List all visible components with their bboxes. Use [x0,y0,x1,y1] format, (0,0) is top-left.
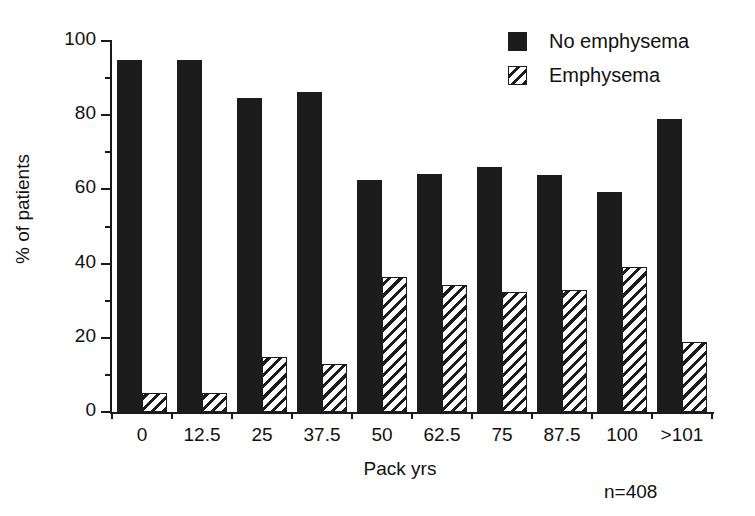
bar-emphysema-12.5 [202,393,227,412]
bar-no-emphysema-37.5 [297,92,322,412]
bar-no-emphysema-0 [117,60,142,412]
bar-emphysema-87.5 [562,290,587,412]
x-tick-37.5 [351,412,353,419]
bar-no-emphysema-87.5 [537,175,562,412]
bar-no-emphysema->101 [657,119,682,412]
y-tick-label-80: 80 [50,102,96,124]
y-minor-tick-90 [105,77,110,79]
y-axis-tick-labels: 020406080100 [44,0,96,516]
x-tick-0 [171,412,173,419]
bar-no-emphysema-50 [357,180,382,412]
x-tick-100 [651,412,653,419]
plot-area [112,41,712,412]
y-tick-40 [101,263,110,265]
x-axis-title: Pack yrs [300,458,500,480]
bar-emphysema-50 [382,277,407,412]
bar-emphysema-0 [142,393,167,412]
bar-emphysema-37.5 [322,364,347,412]
y-minor-tick-70 [105,151,110,153]
bar-emphysema-62.5 [442,285,467,412]
y-tick-60 [101,188,110,190]
y-tick-20 [101,337,110,339]
bar-no-emphysema-62.5 [417,174,442,412]
bar-emphysema-25 [262,357,287,412]
y-tick-label-20: 20 [50,325,96,347]
bar-no-emphysema-12.5 [177,60,202,412]
x-tick-50 [411,412,413,419]
bar-no-emphysema-100 [597,192,622,412]
x-tick->101 [711,412,713,419]
x-tick-62.5 [471,412,473,419]
bar-emphysema-100 [622,267,647,412]
y-minor-tick-50 [105,226,110,228]
x-tick-75 [531,412,533,419]
y-tick-label-40: 40 [50,251,96,273]
y-tick-label-0: 0 [50,399,96,421]
y-tick-label-100: 100 [50,28,96,50]
y-tick-label-60: 60 [50,176,96,198]
x-tick-25 [291,412,293,419]
bar-no-emphysema-25 [237,98,262,412]
bar-emphysema-75 [502,292,527,412]
y-tick-80 [101,114,110,116]
x-tick-12.5 [231,412,233,419]
y-minor-tick-10 [105,374,110,376]
y-tick-0 [101,411,110,413]
y-minor-tick-30 [105,300,110,302]
x-tick-label->101: >101 [642,424,722,446]
x-tick-origin [111,412,113,419]
bar-emphysema->101 [682,342,707,412]
y-axis-title: % of patients [12,109,34,309]
bar-chart-figure: No emphysema Emphysema 020406080100 % of… [0,0,755,516]
bar-no-emphysema-75 [477,167,502,412]
y-tick-100 [101,40,110,42]
x-tick-87.5 [591,412,593,419]
sample-size-annotation: n=408 [604,481,724,503]
